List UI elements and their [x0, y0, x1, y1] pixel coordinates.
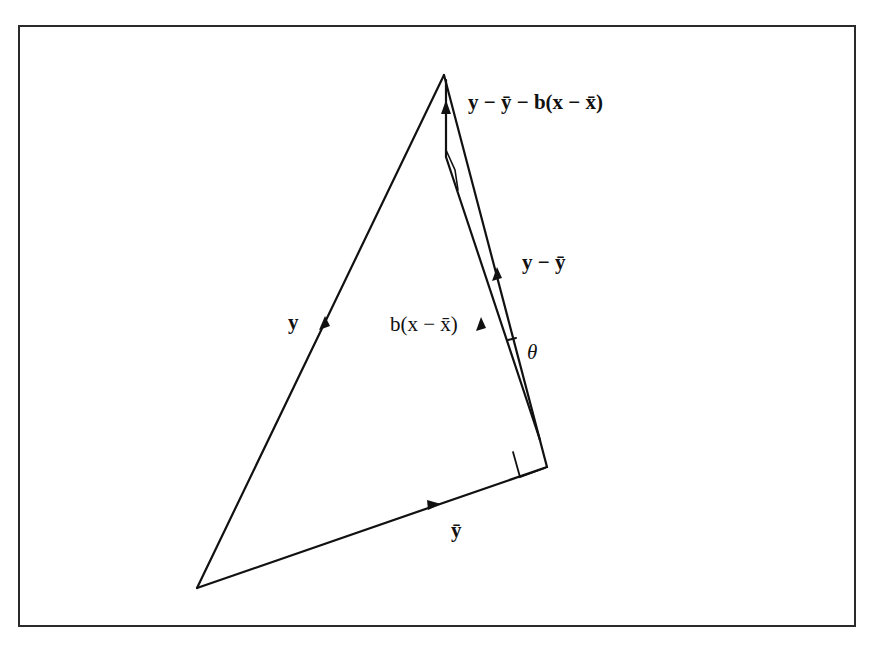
label-y-minus-ybar: y − ȳ [522, 250, 565, 275]
label-theta: θ [527, 340, 537, 365]
right-angle-corner [513, 452, 545, 477]
label-residual: y − ȳ − b(x − x̄) [468, 90, 603, 115]
label-y-bar: ȳ [451, 518, 462, 543]
arrow-y-minus-ybar [492, 267, 502, 281]
right-angle-top [446, 150, 458, 190]
arrow-residual [441, 100, 451, 114]
theta-marker [508, 338, 516, 340]
label-b-x-minus-xbar: b(x − x̄) [390, 312, 458, 337]
arrow-b-x-minus-xbar [476, 317, 486, 331]
arrow-y [319, 316, 330, 330]
vector-y-bar [197, 467, 547, 588]
label-y: y [288, 310, 299, 335]
vector-b-x-minus-xbar [446, 157, 540, 440]
